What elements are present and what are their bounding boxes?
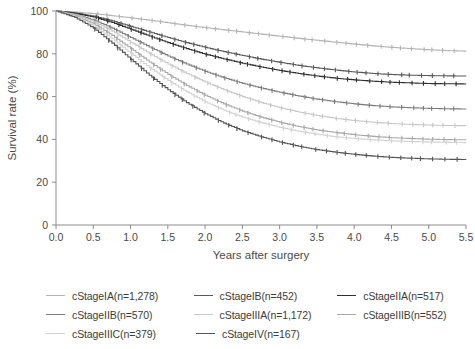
x-axis-title: Years after surgery (213, 249, 310, 261)
legend-line-swatch (46, 295, 65, 296)
series-cstageiib (56, 11, 466, 111)
x-tick-label: 1.0 (123, 231, 138, 243)
y-tick-label: 100 (30, 5, 48, 17)
legend-line-swatch (337, 295, 356, 296)
legend-item-cstage-iiic[interactable]: cStageIIIC(n=379) (46, 328, 196, 340)
y-axis-title: Survival rate (%) (6, 75, 18, 160)
legend-item-label: cStageIIIC(n=379) (72, 328, 156, 340)
legend-item-label: cStageIIIA(n=1,172) (220, 309, 312, 321)
chart-canvas: 0204060801000.00.51.01.52.02.53.03.54.04… (0, 0, 475, 280)
legend-line-swatch (194, 295, 213, 296)
legend-item-cstage-iiib[interactable]: cStageIIIB(n=552) (337, 309, 475, 321)
series-cstageib (56, 11, 466, 78)
legend-item-cstage-iv[interactable]: cStageIV(n=167) (196, 328, 342, 340)
survival-curve (56, 11, 466, 126)
x-tick-label: 4.5 (384, 231, 399, 243)
x-tick-label: 1.5 (161, 231, 176, 243)
x-tick-label: 5.0 (421, 231, 436, 243)
y-tick-label: 20 (36, 176, 48, 188)
legend-item-label: cStageIB(n=452) (220, 290, 298, 302)
x-tick-label: 2.5 (235, 231, 250, 243)
x-tick-label: 4.0 (347, 231, 362, 243)
legend-row: cStageIIIC(n=379)cStageIV(n=167) (46, 324, 475, 343)
survival-curve (56, 11, 466, 109)
legend-item-cstage-iib[interactable]: cStageIIB(n=570) (46, 309, 194, 321)
legend-item-cstage-iia[interactable]: cStageIIA(n=517) (337, 290, 475, 302)
legend-item-cstage-ia[interactable]: cStageIA(n=1,278) (46, 290, 194, 302)
legend-row: cStageIIB(n=570)cStageIIIA(n=1,172)cStag… (46, 305, 475, 324)
chart-legend: cStageIA(n=1,278)cStageIB(n=452)cStageII… (0, 286, 475, 349)
x-tick-label: 2.0 (198, 231, 213, 243)
y-tick-label: 80 (36, 48, 48, 60)
y-tick-label: 60 (36, 90, 48, 102)
legend-item-label: cStageIV(n=167) (222, 328, 300, 340)
plot-area: 0204060801000.00.51.01.52.02.53.03.54.04… (0, 0, 475, 280)
legend-item-cstage-iiia[interactable]: cStageIIIA(n=1,172) (194, 309, 338, 321)
legend-item-label: cStageIIB(n=570) (72, 309, 152, 321)
y-tick-label: 40 (36, 133, 48, 145)
y-tick-label: 0 (42, 219, 48, 231)
survival-curve-figure: 0204060801000.00.51.01.52.02.53.03.54.04… (0, 0, 475, 349)
legend-row: cStageIA(n=1,278)cStageIB(n=452)cStageII… (46, 286, 475, 305)
x-tick-label: 3.5 (310, 231, 325, 243)
legend-line-swatch (194, 314, 213, 315)
x-tick-label: 5.5 (459, 231, 474, 243)
legend-item-cstage-ib[interactable]: cStageIB(n=452) (194, 290, 338, 302)
legend-line-swatch (337, 314, 356, 315)
legend-item-label: cStageIIA(n=517) (363, 290, 443, 302)
x-tick-label: 0.0 (49, 231, 64, 243)
series-cstageiiia (56, 11, 466, 128)
legend-line-swatch (46, 333, 65, 334)
legend-item-label: cStageIIIB(n=552) (363, 309, 446, 321)
x-tick-label: 3.0 (272, 231, 287, 243)
legend-line-swatch (46, 314, 65, 315)
x-tick-label: 0.5 (86, 231, 101, 243)
legend-line-swatch (196, 333, 215, 334)
legend-item-label: cStageIA(n=1,278) (72, 290, 158, 302)
